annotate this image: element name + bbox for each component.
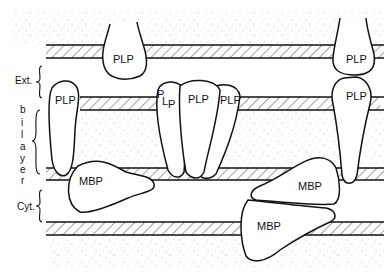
plp-label: PLP	[113, 53, 134, 65]
side-annotations: Ext. b i l a y e r Cyt.	[15, 66, 42, 222]
mbp-label: MBP	[257, 220, 281, 232]
bilayer-letter: l	[21, 129, 23, 140]
bilayer-letter: b	[20, 104, 26, 115]
ext-label: Ext.	[15, 75, 32, 86]
plp-label: P	[168, 98, 175, 110]
plp-label: PLP	[188, 93, 209, 105]
plp-label: PLP	[346, 53, 367, 65]
bilayer-letter: e	[20, 164, 26, 175]
bilayer-letter: i	[21, 117, 23, 128]
cyt-brace	[36, 190, 42, 222]
mbp-label: MBP	[298, 180, 322, 192]
bilayer-brace	[32, 110, 40, 174]
cyt-label: Cyt.	[17, 201, 35, 212]
ext-brace	[36, 66, 42, 98]
myelin-membrane-diagram: PLP PLP PLP P L P PLP PLP PLP MBP MBP MB…	[0, 0, 392, 275]
bilayer-letter: a	[20, 141, 26, 152]
bilayer-letter: y	[20, 153, 25, 164]
mbp-label: MBP	[79, 175, 103, 187]
bilayer-letter: r	[21, 175, 25, 186]
plp-label: PLP	[220, 94, 241, 106]
plp-label: PLP	[346, 90, 367, 102]
plp-label: PLP	[55, 94, 76, 106]
